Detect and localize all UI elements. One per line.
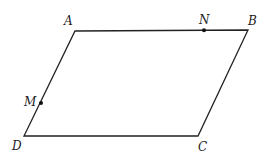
label-A: A — [63, 14, 73, 28]
parallelogram-diagram: A N B M D C — [0, 0, 270, 159]
point-N — [202, 28, 206, 32]
point-M — [39, 101, 43, 105]
label-N: N — [198, 13, 210, 27]
label-D: D — [11, 139, 22, 153]
label-B: B — [247, 14, 257, 28]
label-M: M — [23, 95, 37, 109]
parallelogram-ABCD — [24, 30, 248, 136]
label-C: C — [198, 140, 207, 154]
